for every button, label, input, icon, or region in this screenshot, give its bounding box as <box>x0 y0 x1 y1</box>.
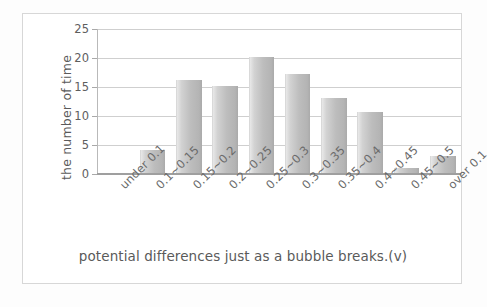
y-tick-label-15: 15 <box>74 80 89 94</box>
y-tick-label-10: 10 <box>74 109 89 123</box>
y-tick-mark-10 <box>92 116 97 117</box>
y-tick-mark-0 <box>92 174 97 175</box>
y-tick-label-5: 5 <box>82 138 89 152</box>
x-axis-tick-labels: under 0.10.1~0.150.15~0.20.2~0.250.25~0.… <box>98 176 462 246</box>
y-tick-label-0: 0 <box>82 167 89 181</box>
y-tick-mark-20 <box>92 58 97 59</box>
x-axis-title: potential differences just as a bubble b… <box>23 248 463 264</box>
y-tick-mark-5 <box>92 145 97 146</box>
bar-slot <box>98 29 134 173</box>
y-tick-label-25: 25 <box>74 22 89 36</box>
y-tick-label-20: 20 <box>74 51 89 65</box>
chart-frame: the number of time 0510152025 under 0.10… <box>22 13 462 284</box>
y-axis-title: the number of time <box>59 43 74 193</box>
y-tick-mark-15 <box>92 87 97 88</box>
y-tick-mark-25 <box>92 29 97 30</box>
